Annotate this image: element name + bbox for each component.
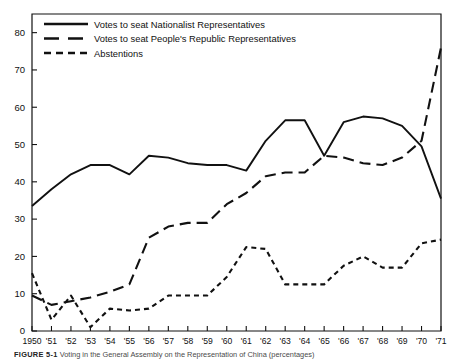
x-axis-tick-label: '54 (104, 336, 115, 346)
x-axis-tick-label: '66 (338, 336, 349, 346)
x-axis-tick-label: '68 (377, 336, 388, 346)
x-axis-tick-label: '56 (143, 336, 154, 346)
legend-label-peoples-republic: Votes to seat People's Republic Represen… (94, 33, 296, 44)
x-axis-tick-label: '65 (319, 336, 330, 346)
x-axis-tick-label: '55 (124, 336, 135, 346)
x-axis-tick-label: '58 (182, 336, 193, 346)
y-axis-tick-label: 70 (14, 64, 25, 75)
y-axis-tick-label: 10 (14, 288, 25, 299)
chart-series (32, 48, 441, 328)
legend-label-abstentions: Abstentions (94, 48, 143, 59)
line-chart: 010203040506070801950'51'52'53'54'55'56'… (0, 0, 454, 345)
figure-caption-text: Voting in the General Assembly on the Re… (60, 350, 315, 359)
x-axis-tick-label: '51 (46, 336, 57, 346)
x-axis-tick-label: '71 (435, 336, 446, 346)
x-axis-tick-label: '59 (202, 336, 213, 346)
x-axis-tick-label: '63 (280, 336, 291, 346)
x-axis-tick-label: '62 (260, 336, 271, 346)
x-axis-tick-label: '60 (221, 336, 232, 346)
y-axis-tick-label: 60 (14, 102, 25, 113)
x-axis-tick-label: '53 (85, 336, 96, 346)
figure-caption-label: FIGURE 5-1 (14, 350, 58, 359)
x-axis-tick-label: '67 (357, 336, 368, 346)
x-axis-tick-label: 1950 (22, 336, 41, 346)
x-axis-tick-label: '57 (163, 336, 174, 346)
plot-border (32, 14, 441, 331)
chart-axes: 010203040506070801950'51'52'53'54'55'56'… (14, 14, 446, 345)
series-line-peoples-republic (32, 48, 441, 305)
x-axis-tick-label: '64 (299, 336, 310, 346)
figure-container: 010203040506070801950'51'52'53'54'55'56'… (0, 0, 454, 361)
x-axis-tick-label: '70 (416, 336, 427, 346)
x-axis-tick-label: '61 (241, 336, 252, 346)
series-line-abstentions (32, 240, 441, 328)
series-line-nationalist (32, 117, 441, 207)
x-axis-tick-label: '69 (396, 336, 407, 346)
x-axis-tick-label: '52 (65, 336, 76, 346)
y-axis-tick-label: 30 (14, 213, 25, 224)
y-axis-tick-label: 40 (14, 176, 25, 187)
y-axis-tick-label: 50 (14, 139, 25, 150)
legend-label-nationalist: Votes to seat Nationalist Representative… (94, 19, 265, 30)
figure-caption: FIGURE 5-1 Voting in the General Assembl… (14, 350, 450, 359)
chart-legend: Votes to seat Nationalist Representative… (44, 19, 296, 59)
y-axis-tick-label: 80 (14, 27, 25, 38)
y-axis-tick-label: 20 (14, 251, 25, 262)
